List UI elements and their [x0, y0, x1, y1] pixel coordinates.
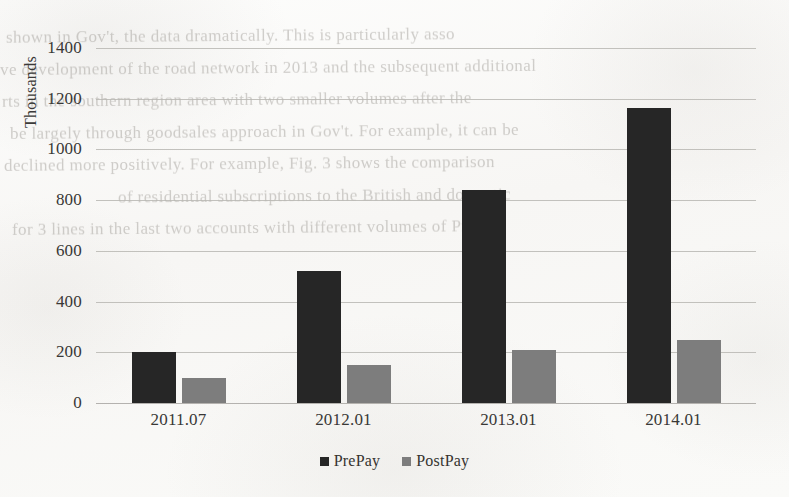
bar-prepay-2012.01: [297, 271, 341, 403]
legend-label: PrePay: [334, 452, 381, 470]
y-axis-tick-label: 600: [56, 241, 82, 261]
bar-prepay-2013.01: [462, 190, 506, 403]
legend-item-postpay[interactable]: PostPay: [402, 452, 469, 470]
postpay-legend-swatch: [402, 457, 411, 466]
gridline: [96, 403, 756, 404]
bar-postpay-2013.01: [512, 350, 556, 403]
bar-prepay-2014.01: [627, 108, 671, 403]
bar-prepay-2011.07: [132, 352, 176, 403]
y-axis-tick-label: 1200: [47, 89, 82, 109]
bar-group: [591, 48, 756, 403]
bar-series-container: [96, 48, 756, 403]
bar-group: [96, 48, 261, 403]
y-axis-tick-label: 800: [56, 190, 82, 210]
x-axis-tick-label: 2013.01: [480, 410, 537, 430]
y-axis-tick-labels: 0200400600800100012001400: [0, 48, 88, 403]
y-axis-tick-label: 1400: [47, 38, 82, 58]
bar-postpay-2011.07: [182, 378, 226, 403]
y-axis-tick-label: 0: [73, 393, 82, 413]
bar-postpay-2012.01: [347, 365, 391, 403]
bar-postpay-2014.01: [677, 340, 721, 403]
plot-area: [96, 48, 756, 403]
legend-label: PostPay: [416, 452, 469, 470]
y-axis-tick-label: 1000: [47, 139, 82, 159]
chart-legend: PrePayPostPay: [0, 452, 789, 470]
x-axis-tick-label: 2014.01: [645, 410, 702, 430]
y-axis-tick-label: 200: [56, 342, 82, 362]
bar-group: [261, 48, 426, 403]
scanned-page: shown in Gov't, the data dramatically. T…: [0, 0, 789, 497]
bar-group: [426, 48, 591, 403]
prepay-legend-swatch: [320, 457, 329, 466]
legend-item-prepay[interactable]: PrePay: [320, 452, 381, 470]
x-axis-category-labels: 2011.072012.012013.012014.01: [96, 410, 756, 436]
x-axis-tick-label: 2011.07: [150, 410, 206, 430]
x-axis-tick-label: 2012.01: [315, 410, 372, 430]
y-axis-tick-label: 400: [56, 292, 82, 312]
